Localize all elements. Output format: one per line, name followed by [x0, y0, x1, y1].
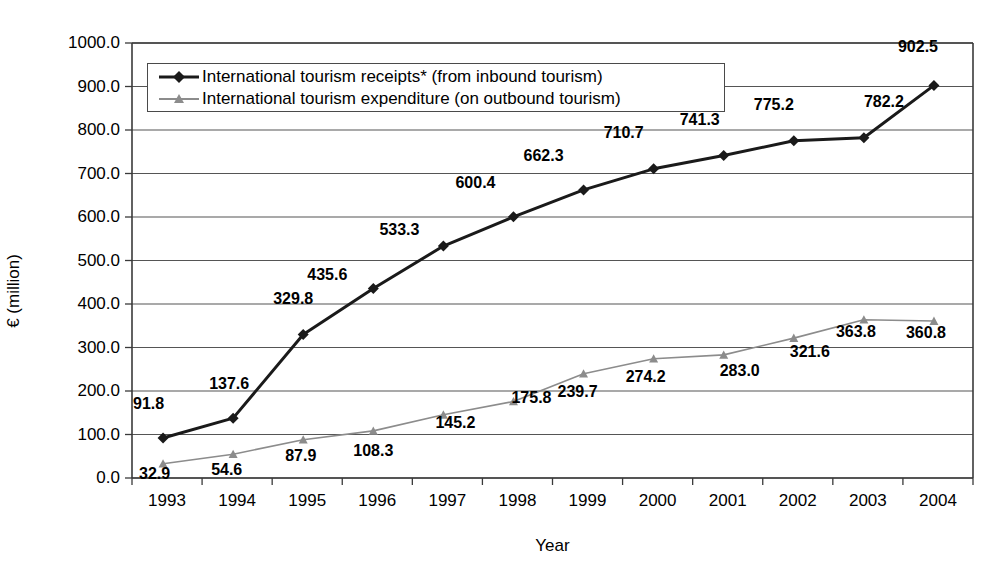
data-point-label: 239.7 — [558, 384, 598, 400]
tourism-line-chart: € (million) Year 0.0100.0200.0300.0400.0… — [0, 0, 999, 578]
x-axis-tick-label: 1997 — [412, 492, 482, 509]
data-point-label: 902.5 — [898, 39, 938, 55]
data-point-label: 435.6 — [307, 267, 347, 283]
data-point-label: 360.8 — [906, 325, 946, 341]
y-axis-tick-label: 200.0 — [34, 382, 120, 399]
x-axis-title: Year — [132, 536, 973, 556]
data-point-label: 32.9 — [139, 466, 170, 482]
x-axis-tick-label: 2003 — [833, 492, 903, 509]
data-point-marker — [718, 150, 729, 161]
legend-marker-diamond-icon — [156, 67, 202, 87]
x-axis-tick-label: 2002 — [763, 492, 833, 509]
x-axis-tick-label: 2001 — [693, 492, 763, 509]
data-point-label: 533.3 — [379, 222, 419, 238]
data-point-label: 710.7 — [604, 125, 644, 141]
data-point-label: 274.2 — [626, 369, 666, 385]
x-axis-tick-label: 2000 — [623, 492, 693, 509]
legend-label-receipts: International tourism receipts* (from in… — [202, 67, 603, 87]
data-point-label: 775.2 — [754, 97, 794, 113]
data-point-label: 283.0 — [720, 363, 760, 379]
y-axis-tick-label: 800.0 — [34, 121, 120, 138]
y-axis-tick-label: 500.0 — [34, 252, 120, 269]
y-axis-title: € (million) — [4, 236, 24, 346]
legend-item-expenditure: International tourism expenditure (on ou… — [156, 88, 621, 110]
chart-legend: International tourism receipts* (from in… — [147, 63, 725, 112]
data-point-marker — [788, 135, 799, 146]
y-axis-tick-label: 300.0 — [34, 339, 120, 356]
data-point-label: 741.3 — [680, 112, 720, 128]
x-axis-tick-label: 1996 — [342, 492, 412, 509]
data-point-label: 662.3 — [524, 148, 564, 164]
data-point-label: 175.8 — [511, 390, 551, 406]
data-point-label: 600.4 — [455, 175, 495, 191]
data-point-label: 137.6 — [209, 376, 249, 392]
data-point-marker — [578, 184, 589, 195]
y-axis-tick-label: 400.0 — [34, 295, 120, 312]
data-point-label: 363.8 — [836, 324, 876, 340]
y-axis-tick-label: 900.0 — [34, 78, 120, 95]
y-axis-tick-label: 700.0 — [34, 165, 120, 182]
y-axis-tick-label: 100.0 — [34, 426, 120, 443]
data-point-label: 87.9 — [285, 448, 316, 464]
legend-item-receipts: International tourism receipts* (from in… — [156, 66, 603, 88]
legend-label-expenditure: International tourism expenditure (on ou… — [202, 89, 621, 109]
x-axis-tick-label: 1999 — [553, 492, 623, 509]
y-axis-tick-label: 600.0 — [34, 208, 120, 225]
y-axis-tick-label: 1000.0 — [34, 34, 120, 51]
data-point-label: 321.6 — [790, 344, 830, 360]
data-point-label: 329.8 — [273, 291, 313, 307]
y-axis-tick-label: 0.0 — [34, 469, 120, 486]
data-point-label: 91.8 — [133, 396, 164, 412]
data-point-label: 54.6 — [211, 462, 242, 478]
data-point-marker — [648, 163, 659, 174]
data-point-marker — [508, 211, 519, 222]
x-axis-tick-label: 1994 — [202, 492, 272, 509]
data-point-label: 108.3 — [353, 443, 393, 459]
legend-marker-triangle-icon — [156, 89, 202, 109]
data-point-label: 782.2 — [864, 94, 904, 110]
x-axis-tick-label: 1995 — [272, 492, 342, 509]
x-axis-tick-label: 1998 — [482, 492, 552, 509]
x-axis-tick-label: 1993 — [132, 492, 202, 509]
x-axis-tick-label: 2004 — [903, 492, 973, 509]
data-point-label: 145.2 — [435, 415, 475, 431]
